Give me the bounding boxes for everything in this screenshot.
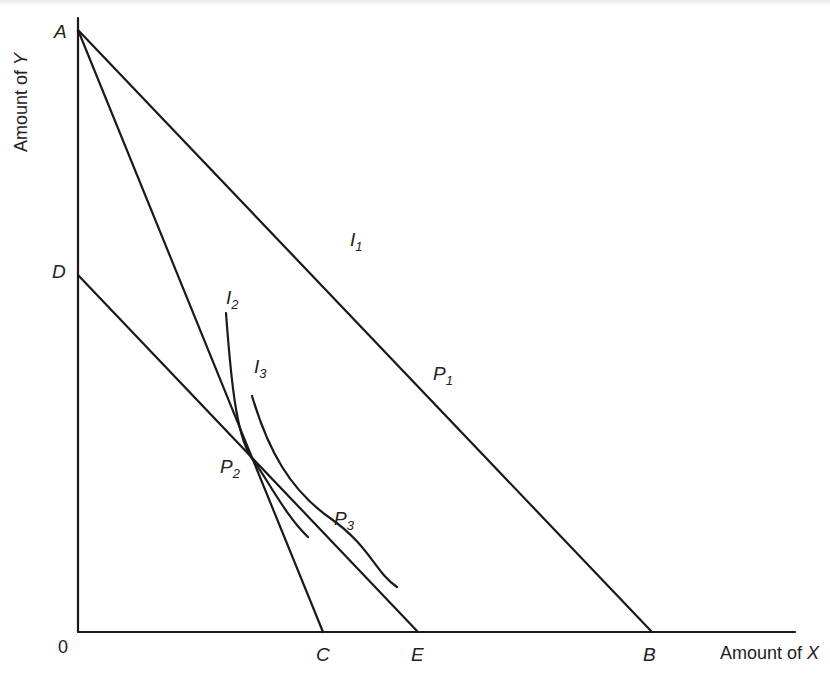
label-p1: P1 xyxy=(433,364,453,387)
point-b-label: B xyxy=(643,645,656,664)
budget-line-ac xyxy=(78,30,323,632)
label-i1: I1 xyxy=(350,230,363,253)
label-i3: I3 xyxy=(254,357,267,380)
point-a-label: A xyxy=(54,22,67,41)
label-p2: P2 xyxy=(220,457,240,480)
indifference-diagram xyxy=(0,0,830,675)
label-i2: I2 xyxy=(226,288,239,311)
x-axis-label: Amount of X xyxy=(720,644,819,662)
point-d-label: D xyxy=(52,262,66,281)
point-e-label: E xyxy=(411,645,424,664)
origin-label: 0 xyxy=(58,638,68,656)
y-axis-label: Amount of Y xyxy=(12,53,30,152)
point-c-label: C xyxy=(316,645,330,664)
budget-line-ab xyxy=(78,30,652,632)
label-p3: P3 xyxy=(334,509,354,532)
